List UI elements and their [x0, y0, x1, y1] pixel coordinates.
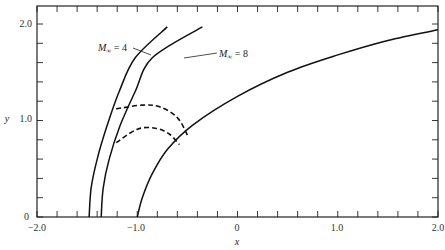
curves [89, 27, 438, 217]
annotation-mach-8: M∞ = 8 [218, 48, 248, 61]
shock-shape-chart: −2.0 −1.0 0 1.0 2.0 0 1.0 2.0 x y M∞ = 4… [0, 0, 445, 250]
y-tick-label: 2.0 [20, 18, 33, 29]
x-tick-label: −1.0 [127, 222, 145, 233]
axis-ticks [37, 6, 438, 217]
annotation-mach-4: M∞ = 4 [97, 42, 127, 55]
plot-frame [37, 6, 438, 217]
y-tick-label: 1.0 [20, 113, 33, 124]
y-tick-label: 0 [24, 211, 29, 222]
sonic-line-curve [116, 127, 179, 144]
x-tick-label: 1.0 [331, 222, 344, 233]
shock-wave-curve [101, 27, 202, 217]
x-axis-title: x [234, 236, 240, 247]
leader-line-mach-4 [133, 48, 151, 55]
x-tick-label: 0 [235, 222, 240, 233]
x-tick-label: 2.0 [432, 222, 445, 233]
y-axis-title: y [4, 113, 10, 124]
leader-line-mach-8 [184, 53, 217, 58]
x-tick-label: −2.0 [28, 222, 46, 233]
